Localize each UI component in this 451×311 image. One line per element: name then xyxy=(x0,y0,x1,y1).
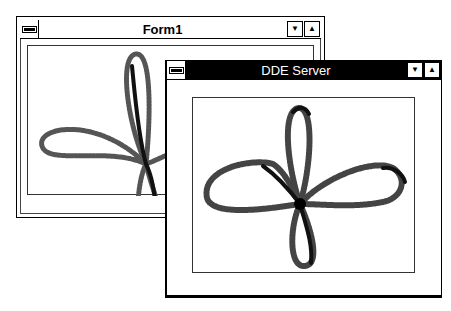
dde-server-minimize-button[interactable]: ▼ xyxy=(407,62,423,78)
curve-center-point xyxy=(294,198,306,210)
form1-minimize-button[interactable]: ▼ xyxy=(287,21,303,37)
form1-title: Form1 xyxy=(44,21,281,38)
dde-server-title: DDE Server xyxy=(191,62,401,79)
minimize-arrow-icon: ▼ xyxy=(291,24,299,33)
system-menu-icon xyxy=(23,27,36,32)
form1-titlebar[interactable]: Form1 ▼ ▲ xyxy=(20,20,321,39)
form1-maximize-button[interactable]: ▲ xyxy=(304,21,320,37)
dde-server-system-menu-button[interactable] xyxy=(167,61,186,79)
form1-system-menu-button[interactable] xyxy=(20,20,39,38)
maximize-arrow-icon: ▲ xyxy=(308,24,316,33)
dde-server-window: DDE Server ▼ ▲ xyxy=(165,60,442,298)
dde-server-maximize-button[interactable]: ▲ xyxy=(424,62,440,78)
dde-server-rose-curve-drawing xyxy=(193,98,416,274)
system-menu-icon xyxy=(170,68,183,73)
dde-server-picture-box xyxy=(192,97,415,273)
maximize-arrow-icon: ▲ xyxy=(428,65,436,74)
minimize-arrow-icon: ▼ xyxy=(411,65,419,74)
dde-server-titlebar[interactable]: DDE Server ▼ ▲ xyxy=(167,61,441,80)
